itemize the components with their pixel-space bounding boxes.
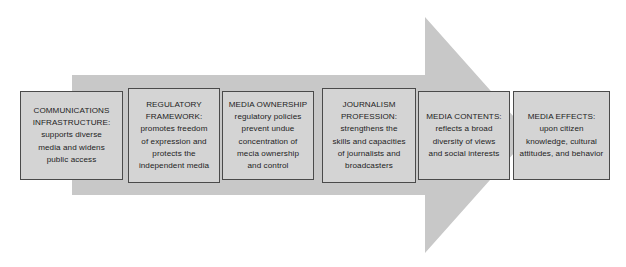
stage-box-media-effects[interactable]: MEDIA EFFECTS: upon citizen knowledge, c… [513,91,610,180]
stage-box-media-contents[interactable]: MEDIA CONTENTS: reflects a broad diversi… [418,91,510,180]
stage-text: COMMUNICATIONS INFRASTRUCTURE: supports … [22,105,121,165]
diagram-canvas: COMMUNICATIONS INFRASTRUCTURE: supports … [0,0,626,267]
stage-text: REGULATORY FRAMEWORK: promotes freedom o… [130,99,218,172]
stage-text: MEDIA CONTENTS: reflects a broad diversi… [420,111,508,159]
stage-box-journalism-profession[interactable]: JOURNALISM PROFESSION: strengthens the s… [322,88,416,183]
stage-text: MEDIA OWNERSHIP regulatory policies prev… [224,99,312,172]
stage-text: JOURNALISM PROFESSION: strengthens the s… [324,99,414,172]
stage-box-media-ownership[interactable]: MEDIA OWNERSHIP regulatory policies prev… [222,91,314,180]
stage-text: MEDIA EFFECTS: upon citizen knowledge, c… [515,111,608,159]
stage-box-communications-infrastructure[interactable]: COMMUNICATIONS INFRASTRUCTURE: supports … [20,91,123,180]
stage-box-regulatory-framework[interactable]: REGULATORY FRAMEWORK: promotes freedom o… [128,88,220,183]
